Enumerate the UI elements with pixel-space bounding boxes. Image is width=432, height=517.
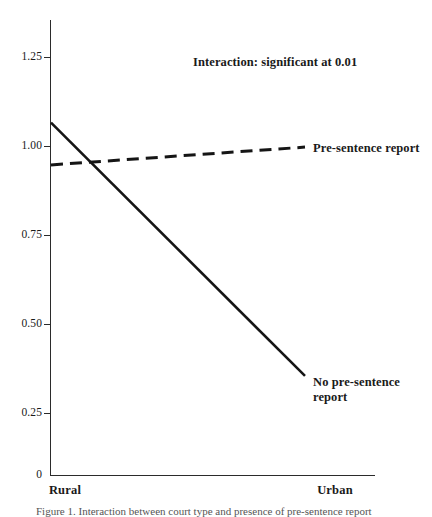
figure-caption: Figure 1. Interaction between court type…: [36, 505, 426, 517]
series-line-no-pre-sentence-report: [51, 123, 305, 376]
figure-container: 1.25 1.00 0.75 0.50 0.25 0 Rural Urban I…: [0, 0, 432, 517]
y-tick-label-5: 0: [0, 468, 42, 482]
y-tick-label-1: 1.00: [0, 139, 42, 153]
y-tick-label-2: 0.75: [0, 228, 42, 242]
x-tick-label-urban: Urban: [290, 483, 380, 498]
series-label-no-pre-sentence-report: No pre-sentencereport: [313, 375, 419, 405]
line-chart-plot: [0, 0, 432, 517]
y-tick-label-4: 0.25: [0, 406, 42, 420]
y-axis-ticks: [44, 58, 51, 414]
series-label-line-2: report: [313, 390, 347, 404]
series-label-line-1: No pre-sentence: [313, 375, 400, 389]
y-tick-label-0: 1.25: [0, 50, 42, 64]
series-label-pre-sentence-report: Pre-sentence report: [313, 141, 420, 156]
series-line-pre-sentence-report: [51, 147, 305, 165]
x-tick-label-rural: Rural: [20, 483, 110, 498]
y-tick-label-3: 0.50: [0, 317, 42, 331]
interaction-annotation: Interaction: significant at 0.01: [193, 55, 357, 70]
